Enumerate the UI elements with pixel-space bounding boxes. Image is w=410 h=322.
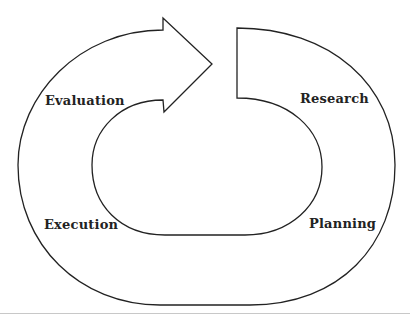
stage-label-research: Research [300, 91, 369, 106]
stage-label-planning: Planning [309, 216, 376, 231]
stage-label-execution: Execution [44, 217, 118, 232]
cycle-diagram [0, 0, 410, 322]
stage-label-evaluation: Evaluation [45, 93, 125, 108]
divider-line [0, 313, 410, 314]
cycle-arrow-shape [18, 18, 395, 305]
